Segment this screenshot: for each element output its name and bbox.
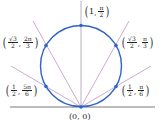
fraction-theta: π 2 (98, 5, 104, 18)
denominator: 2 (129, 43, 135, 49)
label-origin: (0, 0) (69, 113, 91, 121)
denominator: 2 (11, 91, 17, 97)
label-5pi-6: ( 1 2 , 5π 6 ) (5, 84, 38, 97)
denominator: 3 (25, 43, 31, 49)
point-pi-3 (114, 44, 118, 48)
fraction-r: √3 2 (127, 36, 137, 49)
denominator: 6 (138, 91, 144, 97)
point-pi-6 (114, 85, 118, 89)
point-origin (79, 105, 83, 109)
point-pi-2 (79, 24, 83, 28)
denominator: 6 (24, 91, 30, 97)
label-pi-2: ( 1 , π 2 ) (84, 5, 110, 18)
fraction-r: √3 2 (8, 36, 18, 49)
fraction-r: 1 2 (127, 84, 133, 97)
denominator: 2 (98, 12, 104, 18)
fraction-theta: π 3 (142, 36, 148, 49)
fraction-theta: π 6 (138, 84, 144, 97)
polar-diagram: ( 1 , π 2 ) ( √3 2 , π 3 ) ( √3 2 , 2π 3 (0, 0, 159, 127)
point-5pi-6 (44, 85, 48, 89)
denominator: 2 (10, 43, 16, 49)
fraction-theta: 5π 6 (22, 84, 32, 97)
label-pi-3: ( √3 2 , π 3 ) (121, 36, 154, 49)
fraction-r: 1 2 (11, 84, 17, 97)
fraction-theta: 2π 3 (23, 36, 33, 49)
label-pi-6: ( 1 2 , π 6 ) (121, 84, 150, 97)
denominator: 2 (127, 91, 133, 97)
label-2pi-3: ( √3 2 , 2π 3 ) (2, 36, 39, 49)
denominator: 3 (142, 43, 148, 49)
polar-graph-svg (0, 0, 159, 127)
point-2pi-3 (44, 44, 48, 48)
